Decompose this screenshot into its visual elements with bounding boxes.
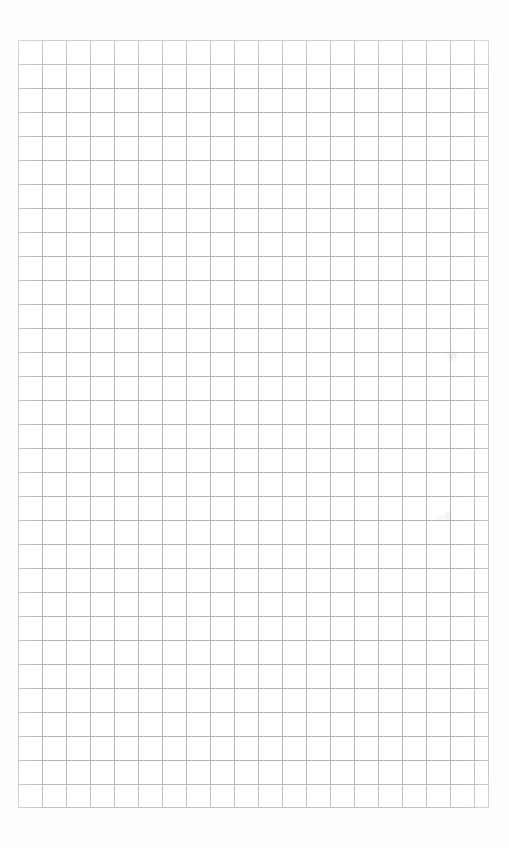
grid-ruling-area <box>18 40 489 808</box>
grid-bottom-border <box>18 807 489 808</box>
grid-left-border <box>18 40 19 808</box>
grid-top-border <box>18 40 489 41</box>
grid-softening-overlay <box>18 40 489 808</box>
grid-paper-scan-page <box>0 0 509 848</box>
grid-right-border <box>488 40 489 808</box>
